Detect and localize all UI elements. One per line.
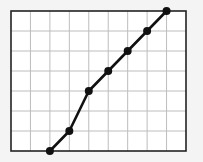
line-chart bbox=[0, 0, 203, 162]
data-point-marker bbox=[163, 7, 171, 15]
data-point-marker bbox=[65, 127, 73, 135]
data-point-marker bbox=[46, 147, 54, 155]
data-point-marker bbox=[124, 47, 132, 55]
data-point-marker bbox=[85, 87, 93, 95]
data-point-marker bbox=[104, 67, 112, 75]
data-point-marker bbox=[143, 27, 151, 35]
